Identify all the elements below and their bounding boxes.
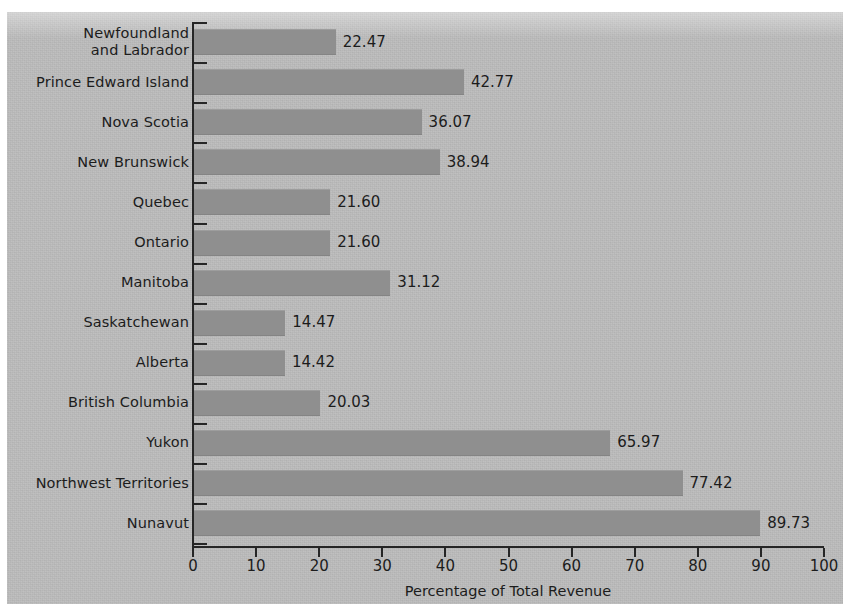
- y-axis-tick: [194, 62, 207, 64]
- x-axis-tick: [760, 548, 762, 557]
- category-label-line: Prince Edward Island: [36, 74, 189, 91]
- bar-value-label: 65.97: [617, 435, 660, 450]
- bar[interactable]: [194, 270, 390, 296]
- x-axis-tick-label: 70: [625, 559, 644, 574]
- x-axis-tick: [192, 548, 194, 557]
- x-axis-tick: [255, 548, 257, 557]
- category-label: Nunavut: [127, 503, 189, 543]
- x-axis-tick-label: 30: [373, 559, 392, 574]
- bar-track: 36.07: [194, 102, 843, 142]
- y-axis-tick: [194, 303, 207, 305]
- bar-track: 21.60: [194, 222, 843, 262]
- bar[interactable]: [194, 470, 683, 496]
- y-axis-tick: [194, 102, 207, 104]
- bar-value-label: 89.73: [767, 516, 810, 531]
- bar-row: British Columbia20.03: [7, 383, 843, 423]
- category-label: Yukon: [146, 423, 189, 463]
- bar[interactable]: [194, 430, 610, 456]
- category-label-line: British Columbia: [68, 394, 189, 411]
- bar-value-label: 42.77: [471, 75, 514, 90]
- y-axis-tick: [194, 423, 207, 425]
- bar-value-label: 14.47: [292, 315, 335, 330]
- category-label: Saskatchewan: [83, 303, 189, 343]
- chart-panel: Newfoundlandand Labrador22.47Prince Edwa…: [7, 12, 843, 604]
- category-label: Prince Edward Island: [36, 62, 189, 102]
- category-label: British Columbia: [68, 383, 189, 423]
- bar[interactable]: [194, 109, 422, 135]
- bar-row: Newfoundlandand Labrador22.47: [7, 22, 843, 62]
- bar-track: 20.03: [194, 383, 843, 423]
- bar-row: Nova Scotia36.07: [7, 102, 843, 142]
- category-label: Alberta: [136, 343, 189, 383]
- bar-value-label: 36.07: [429, 115, 472, 130]
- category-label-line: Nunavut: [127, 515, 189, 532]
- bar-value-label: 22.47: [343, 35, 386, 50]
- category-label-line: Quebec: [133, 194, 189, 211]
- bar-track: 38.94: [194, 142, 843, 182]
- category-label-line: Alberta: [136, 354, 189, 371]
- category-label: Manitoba: [121, 263, 189, 303]
- bar[interactable]: [194, 390, 320, 416]
- bar-row: Saskatchewan14.47: [7, 303, 843, 343]
- y-axis-tick: [194, 263, 207, 265]
- x-axis-tick: [508, 548, 510, 557]
- bar-track: 42.77: [194, 62, 843, 102]
- plot-area: Newfoundlandand Labrador22.47Prince Edwa…: [7, 12, 843, 604]
- x-axis-tick: [318, 548, 320, 557]
- bar-row: Alberta14.42: [7, 343, 843, 383]
- y-axis-tick: [194, 22, 207, 24]
- y-axis-tick: [194, 503, 207, 505]
- y-axis-tick: [194, 543, 207, 545]
- y-axis-tick: [194, 343, 207, 345]
- category-label-line: and Labrador: [91, 42, 189, 59]
- bar[interactable]: [194, 69, 464, 95]
- bar-track: 21.60: [194, 182, 843, 222]
- bar-row: Ontario21.60: [7, 222, 843, 262]
- category-label-line: Northwest Territories: [36, 475, 189, 492]
- bar[interactable]: [194, 230, 330, 256]
- figure-root: Newfoundlandand Labrador22.47Prince Edwa…: [0, 0, 850, 612]
- category-label-line: Newfoundland: [83, 25, 189, 42]
- bar[interactable]: [194, 350, 285, 376]
- y-axis-tick: [194, 182, 207, 184]
- x-axis-tick: [381, 548, 383, 557]
- y-axis-tick: [194, 223, 207, 225]
- x-axis-tick: [634, 548, 636, 557]
- category-label-line: Ontario: [134, 234, 189, 251]
- bar-track: 89.73: [194, 503, 843, 543]
- bar-value-label: 20.03: [327, 395, 370, 410]
- bar-value-label: 77.42: [690, 476, 733, 491]
- bar-track: 31.12: [194, 263, 843, 303]
- bar-track: 14.42: [194, 343, 843, 383]
- bar[interactable]: [194, 310, 285, 336]
- x-axis-tick-label: 90: [751, 559, 770, 574]
- x-axis-title: Percentage of Total Revenue: [192, 584, 824, 599]
- category-label-line: Manitoba: [121, 274, 189, 291]
- category-label: Northwest Territories: [36, 463, 189, 503]
- bar[interactable]: [194, 189, 330, 215]
- bar-value-label: 31.12: [397, 275, 440, 290]
- bar-track: 77.42: [194, 463, 843, 503]
- x-axis-tick: [697, 548, 699, 557]
- bar[interactable]: [194, 29, 336, 55]
- bar[interactable]: [194, 149, 440, 175]
- category-label: Ontario: [134, 222, 189, 262]
- bar-row: Yukon65.97: [7, 423, 843, 463]
- bar-row: Prince Edward Island42.77: [7, 62, 843, 102]
- y-axis-tick: [194, 142, 207, 144]
- bar-row: New Brunswick38.94: [7, 142, 843, 182]
- category-label: Newfoundlandand Labrador: [83, 22, 189, 62]
- x-axis-tick-label: 60: [562, 559, 581, 574]
- category-label-line: Nova Scotia: [101, 114, 189, 131]
- bar-value-label: 38.94: [447, 155, 490, 170]
- bar-rows: Newfoundlandand Labrador22.47Prince Edwa…: [7, 22, 843, 543]
- bar-value-label: 21.60: [337, 195, 380, 210]
- category-label: New Brunswick: [77, 142, 189, 182]
- y-axis-tick: [194, 383, 207, 385]
- category-label-line: Saskatchewan: [83, 314, 189, 331]
- bar[interactable]: [194, 510, 760, 536]
- bar-row: Northwest Territories77.42: [7, 463, 843, 503]
- x-axis-tick-label: 40: [436, 559, 455, 574]
- bar-track: 14.47: [194, 303, 843, 343]
- category-label-line: New Brunswick: [77, 154, 189, 171]
